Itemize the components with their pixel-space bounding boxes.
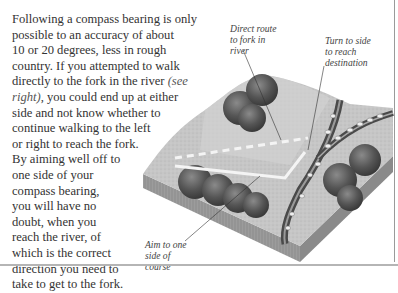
right-column-rule xyxy=(394,0,395,262)
bottom-rule xyxy=(0,264,398,266)
caption-line: Direct route xyxy=(230,23,276,34)
caption-line: Aim to one xyxy=(145,239,187,250)
caption-line: river xyxy=(230,45,276,56)
caption-line: side of xyxy=(145,250,187,261)
caption-line: to fork in xyxy=(230,34,276,45)
caption-direct-route: Direct route to fork in river xyxy=(230,23,276,56)
caption-turn-to-side: Turn to side to reach destination xyxy=(325,35,371,68)
caption-line: Turn to side xyxy=(325,35,371,46)
caption-line: course xyxy=(145,261,187,272)
caption-line: to reach xyxy=(325,46,371,57)
caption-line: destination xyxy=(325,57,371,68)
caption-aim-to-side: Aim to one side of course xyxy=(145,239,187,272)
text-line: take to get to the fork. xyxy=(12,277,202,293)
